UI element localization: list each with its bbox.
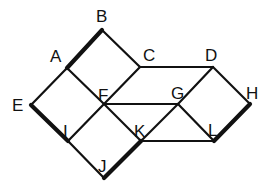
edge-bc bbox=[102, 30, 140, 67]
vertex-label-l: L bbox=[208, 121, 217, 140]
vertex-label-f: F bbox=[98, 86, 108, 105]
edge-if bbox=[68, 104, 104, 141]
vertex-label-d: D bbox=[205, 46, 217, 65]
vertex-label-i: I bbox=[63, 122, 68, 141]
vertex-label-h: H bbox=[246, 84, 258, 103]
vertex-label-e: E bbox=[12, 96, 23, 115]
label-group: ABCDEFGHIJKL bbox=[12, 7, 258, 176]
vertex-label-k: K bbox=[134, 122, 146, 141]
vertex-label-g: G bbox=[171, 84, 184, 103]
edge-ae bbox=[31, 68, 67, 105]
vertex-label-b: B bbox=[96, 7, 107, 26]
vertex-label-c: C bbox=[143, 46, 155, 65]
vertex-label-a: A bbox=[50, 47, 62, 66]
edge-cf bbox=[104, 67, 140, 104]
geometry-diagram: ABCDEFGHIJKL bbox=[0, 0, 267, 190]
edge-lh bbox=[214, 104, 250, 141]
vertex-label-j: J bbox=[98, 157, 107, 176]
edge-ab bbox=[67, 30, 102, 68]
edge-dh bbox=[213, 67, 250, 104]
edge-kg bbox=[141, 104, 178, 141]
edge-jk bbox=[104, 141, 141, 178]
